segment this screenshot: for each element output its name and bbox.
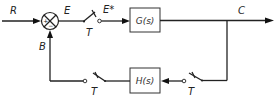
feedback-path bbox=[202, 21, 227, 81]
input-arrow-icon bbox=[33, 18, 41, 24]
error-signal: E bbox=[59, 5, 85, 21]
summing-junction: + − bbox=[42, 13, 59, 30]
label-b: B bbox=[39, 41, 46, 52]
label-t-feedback-output: T bbox=[91, 86, 98, 97]
feedback-input-sampler-switch: T bbox=[161, 72, 203, 97]
block-diagram: R + − E T E* G(s) C bbox=[0, 0, 275, 100]
switch-contact-icon bbox=[98, 19, 102, 23]
feedback-arrow-icon bbox=[161, 78, 169, 84]
label-e-star: E* bbox=[103, 4, 114, 15]
forward-sampler-switch: T bbox=[83, 10, 101, 38]
switch-contact-icon bbox=[182, 79, 186, 83]
label-e: E bbox=[64, 5, 71, 16]
feedback-up-arrow-icon bbox=[47, 30, 53, 38]
output-arrow-icon bbox=[265, 18, 274, 24]
feedback-block: H(s) bbox=[130, 68, 160, 93]
input-signal: R bbox=[2, 5, 41, 24]
output-signal: C bbox=[160, 5, 274, 24]
h-block-label: H(s) bbox=[136, 76, 154, 86]
switch-blade-icon bbox=[93, 73, 105, 81]
switch-blade-icon bbox=[189, 73, 202, 81]
label-t-feedback-input: T bbox=[188, 86, 195, 97]
forward-block: G(s) bbox=[130, 8, 160, 32]
minus-sign: − bbox=[48, 22, 53, 29]
switch-contact-icon bbox=[83, 79, 87, 83]
label-r: R bbox=[10, 5, 17, 16]
forward-arrow-icon bbox=[122, 18, 130, 24]
sampled-error-signal: E* bbox=[101, 4, 130, 24]
feedback-output-sampler-switch: T bbox=[83, 72, 130, 97]
label-c: C bbox=[238, 5, 245, 16]
feedback-signal: B bbox=[39, 30, 83, 81]
switch-pivot-icon bbox=[83, 20, 85, 22]
g-block-label: G(s) bbox=[136, 16, 155, 26]
label-t-forward: T bbox=[86, 27, 93, 38]
